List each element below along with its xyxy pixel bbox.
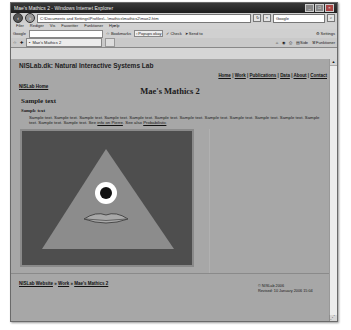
- page-title: Mae's Mathics 2: [11, 86, 329, 96]
- site-header: NISLab.dk: Natural Interactive Systems L…: [19, 62, 153, 69]
- triangle-face-figure: [20, 129, 194, 267]
- refresh-button[interactable]: ↻: [253, 14, 261, 22]
- google-search-input[interactable]: [29, 30, 103, 38]
- check-icon: ✓: [166, 31, 169, 36]
- nav-about[interactable]: About: [293, 73, 306, 78]
- menu-view[interactable]: Vis: [50, 23, 55, 29]
- crumb-maes-mathics[interactable]: Mae's Mathics 2: [74, 281, 108, 286]
- title-bar: Mae's Mathics 2 - Windows Internet Explo…: [11, 3, 337, 13]
- info-link[interactable]: info on Pierre: [97, 120, 123, 125]
- stop-button[interactable]: ×: [263, 14, 271, 22]
- settings-icon: ⚙: [316, 31, 320, 36]
- scroll-up-arrow-icon[interactable]: ▲: [330, 59, 337, 66]
- footer-breadcrumb: NISLab Website » Work » Mae's Mathics 2: [19, 281, 108, 286]
- crumb-nislab-website[interactable]: NISLab Website: [19, 281, 53, 286]
- maximize-button[interactable]: □: [315, 4, 324, 12]
- window-title: Mae's Mathics 2 - Windows Internet Explo…: [14, 5, 305, 11]
- footer-info: © NISLab 2006 Revised: 10 January 2006 1…: [258, 284, 313, 294]
- nav-data[interactable]: Data: [280, 73, 290, 78]
- favorites-star-icon[interactable]: ☆: [13, 40, 17, 45]
- toolbar-settings[interactable]: ⚙Settings: [316, 31, 335, 36]
- body-paragraph: Sample text. Sample text. Sample text. S…: [29, 115, 325, 126]
- search-input[interactable]: Google: [273, 14, 325, 23]
- minimize-button[interactable]: _: [305, 4, 314, 12]
- popup-icon: ▫: [136, 31, 137, 36]
- toolbar-popups[interactable]: ▫Popups okay: [134, 30, 164, 37]
- nav-home[interactable]: Home: [218, 73, 231, 78]
- print-icon[interactable]: ⎙: [289, 40, 292, 45]
- tools-menu[interactable]: ⚒Funktioner: [312, 40, 335, 45]
- toolbar-bookmarks[interactable]: ☆Bookmarks: [106, 31, 131, 36]
- toolbar-check[interactable]: ✓Check: [166, 31, 181, 36]
- address-bar[interactable]: C:\Documents and Settings\Profiles\...\m…: [37, 14, 251, 23]
- search-button[interactable]: ⌕: [327, 14, 335, 22]
- vertical-scrollbar[interactable]: ▲: [329, 59, 337, 315]
- resize-grip-icon[interactable]: ⋰: [330, 314, 336, 320]
- section-heading: Sample text: [21, 97, 56, 105]
- bookmark-icon: ☆: [106, 31, 110, 36]
- menu-help[interactable]: Hjælp: [109, 23, 119, 29]
- crumb-work[interactable]: Work: [58, 281, 69, 286]
- address-row: ‹ › C:\Documents and Settings\Profiles\.…: [11, 13, 337, 23]
- revised-date: Revised: 10 January 2006 15:04: [258, 289, 313, 294]
- tab-maes-mathics[interactable]: ▪ Mae's Mathics 2: [26, 38, 102, 47]
- page-menu[interactable]: ▤Side: [296, 40, 308, 45]
- back-button[interactable]: ‹: [13, 13, 23, 23]
- triangle-face-image: [22, 131, 192, 265]
- nav-contact[interactable]: Contact: [310, 73, 327, 78]
- home-icon[interactable]: ⌂: [276, 40, 278, 45]
- top-nav: Home | Work | Publications | Data | Abou…: [218, 73, 327, 78]
- forward-button[interactable]: ›: [25, 13, 35, 23]
- close-button[interactable]: ×: [325, 4, 334, 12]
- menu-tools[interactable]: Funktioner: [84, 23, 103, 29]
- menu-file[interactable]: Filer: [16, 23, 24, 29]
- tab-row: ☆ ✚ ▪ Mae's Mathics 2 ⌂ ◉ ⎙ ▤Side ⚒Funkt…: [11, 38, 337, 48]
- add-favorites-icon[interactable]: ✚: [20, 40, 23, 45]
- toolbar-send[interactable]: ➤Send to: [185, 31, 203, 36]
- menu-edit[interactable]: Rediger: [30, 23, 44, 29]
- probabilistic-link[interactable]: Probabilistic: [143, 120, 166, 125]
- page-favicon-icon: ▪: [29, 40, 30, 45]
- send-icon: ➤: [185, 31, 188, 36]
- nav-work[interactable]: Work: [235, 73, 246, 78]
- feed-icon[interactable]: ◉: [282, 40, 285, 45]
- sub-heading: Sample text: [21, 108, 45, 113]
- menu-favorites[interactable]: Favoritter: [61, 23, 78, 29]
- new-tab-button[interactable]: [105, 38, 115, 47]
- google-logo: Google: [13, 31, 26, 36]
- footer-divider: [11, 273, 329, 274]
- layout-guide: [209, 129, 210, 273]
- eye-pupil-icon: [100, 187, 112, 199]
- browser-window: Mae's Mathics 2 - Windows Internet Explo…: [10, 2, 338, 322]
- page-content: NISLab.dk: Natural Interactive Systems L…: [11, 59, 330, 321]
- nav-publications[interactable]: Publications: [250, 73, 277, 78]
- google-toolbar: Google ☆Bookmarks ▫Popups okay ✓Check ➤S…: [11, 29, 337, 38]
